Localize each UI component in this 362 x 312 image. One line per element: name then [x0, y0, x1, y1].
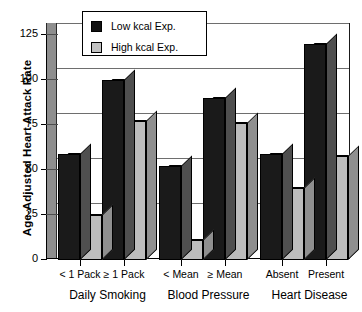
- y-tick-label: 25: [8, 208, 38, 219]
- bar-side-face: [124, 69, 135, 260]
- bar-side-face: [326, 33, 337, 260]
- gridline-front-stub: [46, 214, 58, 215]
- x-tick-mark: [80, 260, 81, 266]
- y-tick-label: 75: [8, 118, 38, 129]
- legend-item: Low kcal Exp.: [91, 19, 176, 33]
- gridline-front-stub: [46, 79, 58, 80]
- legend-label: Low kcal Exp.: [111, 20, 176, 32]
- bar-front-face: [58, 154, 80, 260]
- bar-side-face: [247, 113, 258, 260]
- gridline-front-stub: [46, 169, 58, 170]
- y-tick-label: 0: [8, 253, 38, 264]
- bar-side-face: [304, 177, 315, 260]
- y-tick-label: 125: [8, 28, 38, 39]
- x-tick-mark: [225, 260, 226, 266]
- chart-legend: Low kcal Exp.High kcal Exp.: [82, 11, 207, 56]
- gridline-front-stub: [46, 34, 58, 35]
- bar: [159, 165, 192, 260]
- bar: [58, 153, 91, 260]
- bar: [260, 153, 293, 260]
- legend-swatch: [91, 21, 102, 32]
- legend-swatch: [91, 42, 102, 53]
- y-tick-mark: [41, 259, 47, 260]
- bar-side-face: [348, 145, 359, 260]
- legend-item: High kcal Exp.: [91, 40, 178, 54]
- bar-side-face: [102, 204, 113, 260]
- gridline-front-stub: [46, 124, 58, 125]
- bar-front-face: [159, 166, 181, 260]
- bar-side-face: [80, 143, 91, 260]
- y-tick-label: 100: [8, 73, 38, 84]
- x-tick-mark: [282, 260, 283, 266]
- bar-front-face: [260, 154, 282, 260]
- x-tick-label: Present: [286, 269, 362, 280]
- bar-side-face: [282, 143, 293, 260]
- bar-side-face: [225, 87, 236, 260]
- x-tick-mark: [326, 260, 327, 266]
- y-axis-title: Age-Adjusted Heart Attack Rate: [21, 23, 33, 273]
- x-tick-mark: [181, 260, 182, 266]
- bar-side-face: [146, 111, 157, 260]
- chart-container: Age-Adjusted Heart Attack Rate 025507510…: [0, 0, 362, 312]
- x-tick-mark: [124, 260, 125, 266]
- legend-label: High kcal Exp.: [111, 41, 178, 53]
- x-group-label: Heart Disease: [250, 289, 362, 301]
- y-tick-label: 50: [8, 163, 38, 174]
- bar-side-face: [181, 156, 192, 260]
